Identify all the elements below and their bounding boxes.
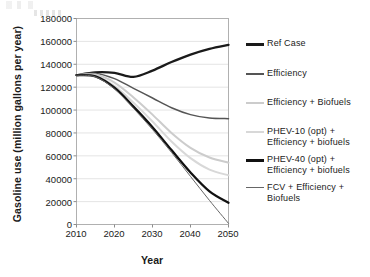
figure-root: Gasoline use (million gallons per year) … [0, 0, 370, 277]
legend-item-phev40[interactable]: PHEV-40 (opt) + Efficiency + biofuels [246, 154, 350, 175]
series-line-0 [77, 45, 229, 77]
series-lines [77, 45, 229, 224]
grid-lines [77, 19, 229, 202]
legend-swatch-line-icon [246, 187, 264, 188]
legend-swatch-line-icon [246, 159, 264, 162]
legend-item-efficiency[interactable]: Efficiency [246, 68, 307, 79]
legend-swatch-line-icon [246, 43, 264, 46]
legend-item-ref-case[interactable]: Ref Case [246, 38, 306, 49]
legend-swatch-line-icon [246, 102, 264, 104]
series-line-1 [77, 73, 229, 118]
legend-swatch-line-icon [246, 73, 264, 75]
legend-label: Efficiency + Biofuels [267, 97, 351, 108]
legend-label: Ref Case [267, 38, 306, 49]
series-line-4 [77, 75, 229, 203]
legend-label: Efficiency [267, 68, 307, 79]
legend-swatch-line-icon [246, 131, 264, 133]
legend-item-efficiency-biofuels[interactable]: Efficiency + Biofuels [246, 97, 351, 108]
legend-label: PHEV-40 (opt) + Efficiency + biofuels [267, 154, 350, 175]
legend-item-phev10[interactable]: PHEV-10 (opt) + Efficiency + biofuels [246, 126, 350, 147]
legend-item-fcv[interactable]: FCV + Efficiency + Biofuels [246, 182, 344, 203]
series-line-3 [77, 75, 229, 176]
legend-label: FCV + Efficiency + Biofuels [267, 182, 344, 203]
legend-label: PHEV-10 (opt) + Efficiency + biofuels [267, 126, 350, 147]
